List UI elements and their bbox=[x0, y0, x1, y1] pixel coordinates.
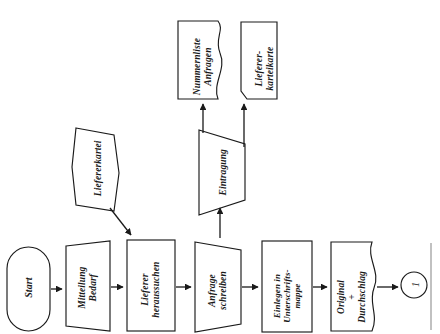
flowchart-canvas: Start Mitteilung Bedarf Lieferer herauss… bbox=[0, 0, 440, 334]
node-original-durchschlag bbox=[331, 242, 376, 331]
node-anfrage-schreiben bbox=[195, 242, 241, 332]
node-connector-1-label: 1 bbox=[410, 280, 421, 290]
node-lieferer-heraussuchen bbox=[127, 240, 175, 331]
node-eintragung bbox=[199, 130, 245, 215]
node-liefererkartei bbox=[72, 128, 119, 211]
flowchart-svg bbox=[0, 0, 440, 334]
node-mitteilung-bedarf bbox=[66, 241, 110, 331]
node-einlegen-unterschriftsmappe bbox=[262, 241, 312, 332]
edge-liefererkartei-to-lieferer bbox=[110, 208, 131, 235]
node-start bbox=[7, 247, 50, 331]
node-nummernliste-anfragen bbox=[178, 21, 222, 99]
node-lieferer-karteikarte bbox=[241, 22, 277, 99]
